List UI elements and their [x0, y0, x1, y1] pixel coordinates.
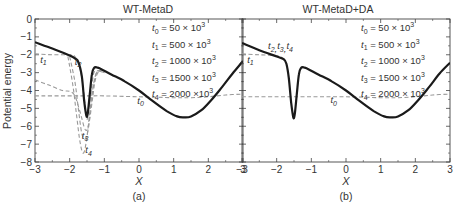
y-tick-label: −4: [21, 85, 33, 96]
panel-caption: (b): [340, 190, 353, 202]
legend-entry: t4 = 2000 × 103: [361, 87, 425, 101]
legend-entry: t0 = 50 × 103: [152, 21, 205, 35]
figure: WT-MetaD−3−2−101230−1−2−3−4−5−6−7−8X(a)t…: [0, 0, 454, 207]
x-tick-label: −1: [306, 164, 318, 175]
legend-entry: t3 = 1500 × 103: [152, 71, 216, 85]
x-tick-label: 3: [447, 164, 453, 175]
curve-annotation: t2,t3,t4: [268, 40, 293, 54]
x-axis-label: X: [134, 175, 143, 187]
x-tick-label: −2: [271, 164, 283, 175]
curve-annotation: t4: [85, 144, 92, 157]
curve-annotation: t0: [330, 94, 337, 107]
x-tick-label: −1: [99, 164, 111, 175]
curve-annotation: t1: [247, 54, 254, 66]
legend-entry: t1 = 500 × 103: [361, 38, 420, 52]
x-tick-label: −2: [64, 164, 76, 175]
curve-annotation: t2: [75, 56, 82, 69]
y-tick-label: −3: [21, 67, 33, 78]
x-tick-label: 1: [378, 164, 384, 175]
y-axis-label: Potential energy: [1, 52, 13, 129]
y-tick-label: −2: [21, 49, 33, 60]
legend-entry: t2 = 1000 × 103: [361, 54, 425, 68]
y-tick-label: −8: [21, 157, 33, 168]
x-tick-label: 2: [206, 164, 212, 175]
curve-annotation: t1: [40, 54, 47, 66]
y-tick-label: −7: [21, 139, 33, 150]
x-tick-label: −3: [236, 164, 248, 175]
chart-title: WT-MetaD: [123, 3, 174, 15]
legend-entry: t3 = 1500 × 103: [361, 71, 425, 85]
panel-a: WT-MetaD−3−2−101230−1−2−3−4−5−6−7−8X(a)t…: [21, 3, 247, 202]
x-tick-label: 0: [343, 164, 349, 175]
y-tick-label: 0: [26, 14, 32, 25]
chart-title: WT-MetaD+DA: [303, 3, 374, 15]
panel-b: WT-MetaD+DA−3−2−10123X(b)t0 = 50 × 103t1…: [236, 3, 453, 202]
x-tick-label: 1: [171, 164, 177, 175]
x-tick-label: 2: [413, 164, 419, 175]
y-tick-label: −1: [21, 31, 33, 42]
legend-entry: t0 = 50 × 103: [361, 21, 414, 35]
legend-entry: t1 = 500 × 103: [152, 38, 211, 52]
legend-entry: t4 = 2000 ×103: [152, 87, 213, 101]
legend-entry: t2 = 1000 × 103: [152, 54, 216, 68]
x-axis-label: X: [341, 175, 350, 187]
y-tick-label: −5: [21, 103, 33, 114]
x-tick-label: 0: [136, 164, 142, 175]
panel-caption: (a): [133, 190, 146, 202]
y-tick-label: −6: [21, 121, 33, 132]
